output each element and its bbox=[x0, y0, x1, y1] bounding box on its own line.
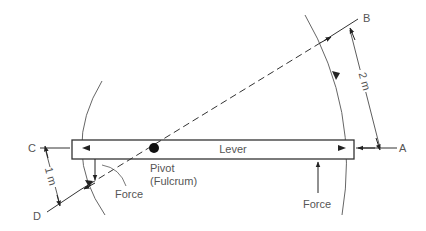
force-leader-left bbox=[102, 165, 126, 186]
fulcrum-label: (Fulcrum) bbox=[150, 175, 197, 187]
arc-long bbox=[305, 15, 346, 215]
force-label-left: Force bbox=[115, 188, 143, 200]
point-b-label: B bbox=[363, 12, 370, 24]
point-a-label: A bbox=[399, 142, 407, 154]
point-d-label: D bbox=[33, 210, 41, 222]
lever-diagram: Lever Pivot (Fulcrum) Force Force A B C … bbox=[0, 0, 426, 231]
lever-bar bbox=[72, 140, 354, 159]
pivot-label: Pivot bbox=[150, 162, 174, 174]
point-c-label: C bbox=[28, 142, 36, 154]
segment-b bbox=[325, 19, 358, 40]
pivot-dot bbox=[149, 143, 159, 153]
segment-d bbox=[47, 190, 80, 212]
arrow-b-end bbox=[320, 37, 331, 43]
force-label-right: Force bbox=[303, 198, 331, 210]
lever-label: Lever bbox=[219, 143, 247, 155]
arc-short-arrow bbox=[85, 180, 93, 187]
rotated-lever-line bbox=[80, 40, 325, 190]
